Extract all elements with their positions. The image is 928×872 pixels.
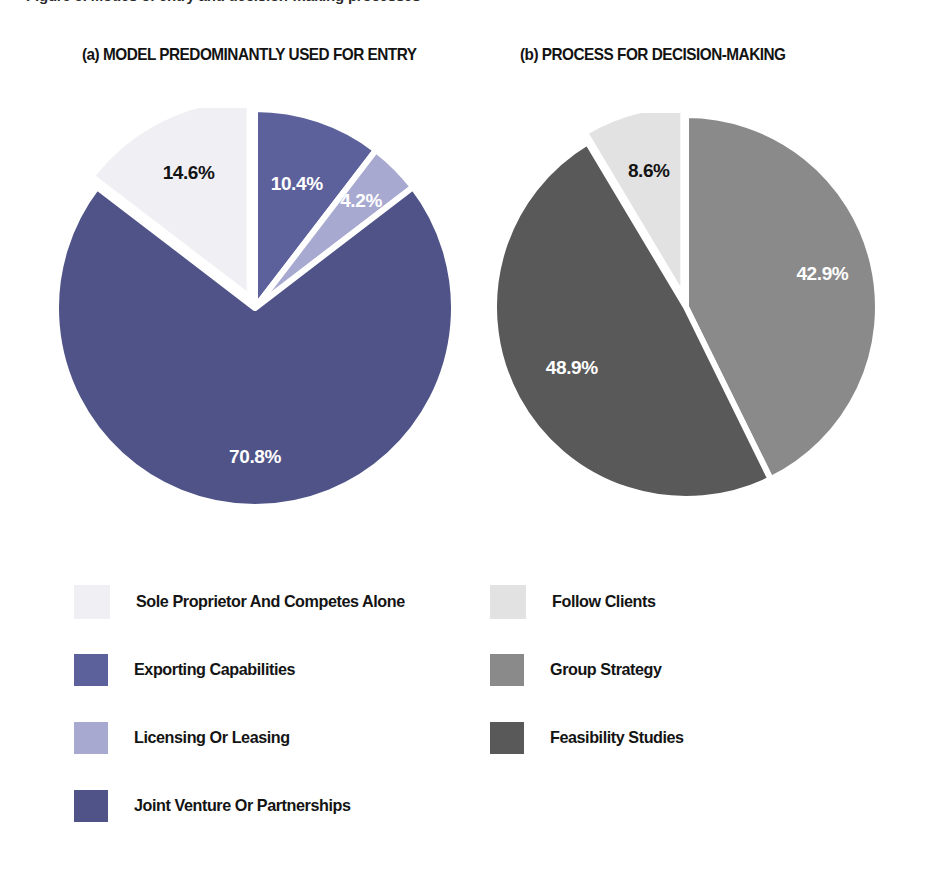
pie-chart-decision-process: 42.9%48.9%8.6% xyxy=(492,113,880,501)
legend-label: Feasibility Studies xyxy=(550,728,684,748)
legend-label: Group Strategy xyxy=(550,660,662,680)
chart-a-title: (a) MODEL PREDOMINANTLY USED FOR ENTRY xyxy=(82,45,416,64)
clipped-caption-text: Figure 5. Modes of entry and decision-ma… xyxy=(26,0,420,4)
legend-item[interactable]: Feasibility Studies xyxy=(490,704,691,772)
legend-entry-model: Sole Proprietor And Competes Alone Expor… xyxy=(74,568,419,840)
legend-item[interactable]: Follow Clients xyxy=(490,568,691,636)
legend-swatch-follow-clients xyxy=(490,585,526,619)
pie-slice-value-label: 48.9% xyxy=(546,357,598,378)
legend-item[interactable]: Licensing Or Leasing xyxy=(74,704,419,772)
pie-slice-value-label: 8.6% xyxy=(628,160,670,181)
legend-label: Joint Venture Or Partnerships xyxy=(134,796,350,816)
chart-b-title: (b) PROCESS FOR DECISION-MAKING xyxy=(520,45,785,64)
legend-label: Licensing Or Leasing xyxy=(134,728,290,748)
legend-swatch-licensing-or-leasing xyxy=(74,722,108,754)
pie-slice-value-label: 4.2% xyxy=(340,190,382,211)
legend-swatch-group-strategy xyxy=(490,654,524,686)
legend-swatch-sole-proprietor xyxy=(74,585,110,619)
clipped-caption: Figure 5. Modes of entry and decision-ma… xyxy=(0,0,928,14)
pie-slice-value-label: 42.9% xyxy=(796,263,848,284)
pie-slice-value-label: 10.4% xyxy=(271,173,323,194)
legend-label: Exporting Capabilities xyxy=(134,660,295,680)
legend-decision-process: Follow Clients Group Strategy Feasibilit… xyxy=(490,568,691,772)
pie-slice-value-label: 14.6% xyxy=(163,162,215,183)
legend-item[interactable]: Exporting Capabilities xyxy=(74,636,419,704)
legend-item[interactable]: Joint Venture Or Partnerships xyxy=(74,772,419,840)
legend-item[interactable]: Sole Proprietor And Competes Alone xyxy=(74,568,419,636)
legend-item[interactable]: Group Strategy xyxy=(490,636,691,704)
pie-b-svg: 42.9%48.9%8.6% xyxy=(492,113,880,501)
legend-swatch-joint-venture xyxy=(74,790,108,822)
legend-swatch-exporting-capabilities xyxy=(74,654,108,686)
legend-label: Follow Clients xyxy=(552,592,655,612)
legend-label: Sole Proprietor And Competes Alone xyxy=(136,592,405,612)
pie-a-svg: 10.4%4.2%70.8%14.6% xyxy=(54,108,456,510)
pie-slice-value-label: 70.8% xyxy=(229,446,281,467)
pie-b-slices xyxy=(494,113,878,499)
pie-chart-entry-model: 10.4%4.2%70.8%14.6% xyxy=(54,108,456,510)
legend-swatch-feasibility-studies xyxy=(490,722,524,754)
